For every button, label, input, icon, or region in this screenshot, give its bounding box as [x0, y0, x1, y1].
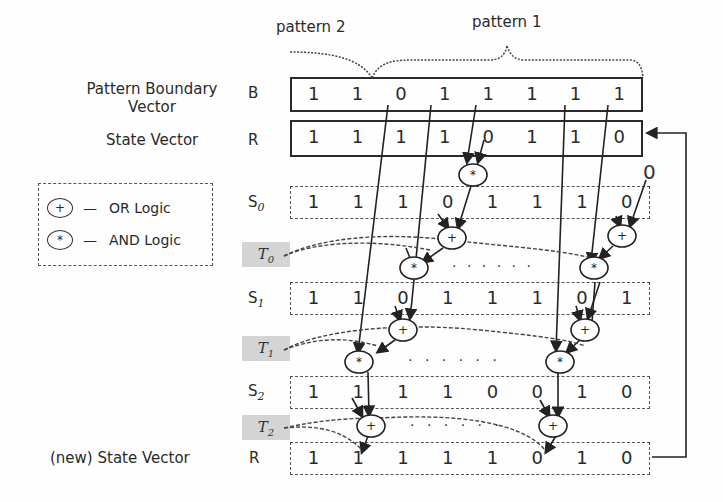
svg-text:+: +: [617, 229, 627, 243]
svg-text:+: +: [447, 231, 457, 245]
svg-text:*: *: [356, 355, 362, 369]
svg-text:*: *: [470, 168, 476, 182]
pattern-braces: [290, 46, 643, 78]
svg-text:+: +: [398, 323, 408, 337]
svg-text:+: +: [548, 419, 558, 433]
diagram-connections: * + + * * + + * * + +: [0, 0, 723, 502]
svg-text:*: *: [411, 261, 417, 275]
svg-text:+: +: [580, 323, 590, 337]
svg-text:*: *: [591, 261, 597, 275]
logic-gates: [345, 164, 636, 437]
svg-text:*: *: [557, 355, 563, 369]
svg-text:+: +: [366, 419, 376, 433]
